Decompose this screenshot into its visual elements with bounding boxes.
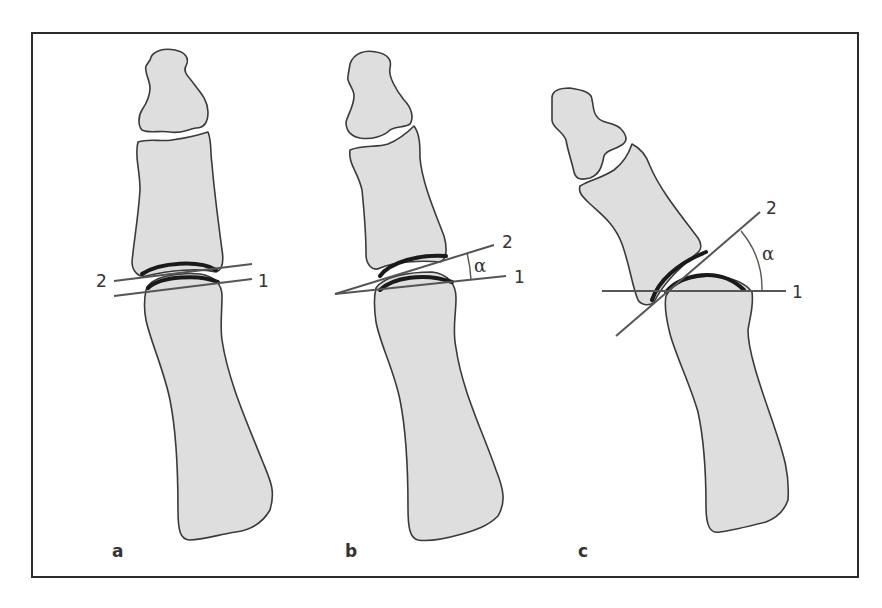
middle-phalanx xyxy=(350,126,446,269)
panel-b-label: b xyxy=(345,541,357,561)
proximal-phalanx xyxy=(375,272,504,541)
angle-alpha-label: α xyxy=(762,243,774,264)
distal-phalanx xyxy=(139,49,208,132)
line-2-label: 2 xyxy=(96,271,107,291)
finger-joint-diagram: 2 1 a α 2 1 b α 2 1 c xyxy=(0,0,882,608)
panel-a: 2 1 a xyxy=(96,49,272,561)
angle-arc xyxy=(467,253,471,280)
angle-alpha-label: α xyxy=(474,255,486,276)
proximal-phalanx xyxy=(145,274,273,540)
distal-phalanx xyxy=(346,51,412,138)
line-2-label: 2 xyxy=(502,232,513,252)
panel-c: α 2 1 c xyxy=(552,88,803,561)
line-1-label: 1 xyxy=(792,282,803,302)
panel-a-label: a xyxy=(112,541,123,561)
proximal-phalanx xyxy=(665,276,788,532)
angle-arc xyxy=(741,231,762,291)
distal-phalanx xyxy=(552,88,626,179)
line-2-label: 2 xyxy=(766,198,777,218)
line-1-label: 1 xyxy=(258,271,269,291)
panel-b: α 2 1 b xyxy=(335,51,525,561)
line-1-label: 1 xyxy=(514,267,525,287)
panel-c-label: c xyxy=(578,541,588,561)
middle-phalanx xyxy=(132,132,223,276)
